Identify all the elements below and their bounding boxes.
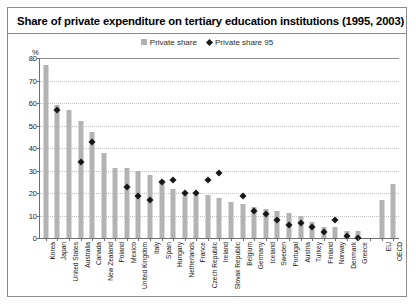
x-axis-tick-label: Czech Republic <box>211 242 218 288</box>
x-axis-tick <box>57 238 58 241</box>
x-axis-tick <box>370 238 371 241</box>
bar-group[interactable]: Poland <box>109 58 121 238</box>
x-axis-tick <box>277 238 278 241</box>
bar-group[interactable]: Turkey <box>306 58 318 238</box>
x-axis-tick <box>254 238 255 241</box>
bar[interactable] <box>124 168 129 238</box>
bar[interactable] <box>113 168 118 238</box>
bar-group[interactable]: Italy <box>144 58 156 238</box>
y-axis-tick <box>37 238 40 239</box>
bar[interactable] <box>171 189 176 239</box>
x-axis-tick <box>46 238 47 241</box>
x-axis-tick-label: Austria <box>304 242 311 263</box>
x-axis-tick-label: Australia <box>84 242 91 268</box>
x-axis-tick <box>358 238 359 241</box>
bar-group[interactable]: Ireland <box>214 58 226 238</box>
bar-group[interactable]: New Zealand <box>98 58 110 238</box>
x-axis-tick <box>150 238 151 241</box>
bar-group[interactable]: Norway <box>330 58 342 238</box>
x-axis-tick-label: Greece <box>361 242 368 264</box>
y-axis-tick-label: 10 <box>29 211 37 220</box>
x-axis-tick-label: Italy <box>153 242 160 254</box>
x-axis-tick-label: Netherlands <box>188 242 195 278</box>
bar-group[interactable]: Greece <box>353 58 365 238</box>
y-axis-tick-label: 80 <box>29 54 37 63</box>
y-axis-tick-label: 70 <box>29 76 37 85</box>
x-axis-tick <box>335 238 336 241</box>
x-axis-tick <box>219 238 220 241</box>
y-axis-tick-label: 20 <box>29 189 37 198</box>
bar-group[interactable]: Japan <box>52 58 64 238</box>
bar-group[interactable]: Iceland <box>260 58 272 238</box>
y-axis-tick-label: 50 <box>29 121 37 130</box>
x-axis-tick-label: New Zealand <box>107 242 114 281</box>
bar[interactable] <box>159 180 164 239</box>
bar[interactable] <box>66 110 71 238</box>
x-axis-tick-label: OECD <box>396 242 403 261</box>
bar[interactable] <box>240 204 245 238</box>
bar-group[interactable]: Austria <box>295 58 307 238</box>
bar-group[interactable]: Sweden <box>272 58 284 238</box>
x-axis-tick-label: Turkey <box>315 242 322 262</box>
diamond-marker[interactable] <box>216 169 223 176</box>
bar-group[interactable]: Hungary <box>167 58 179 238</box>
x-axis-tick-label: France <box>199 242 206 263</box>
x-axis-tick <box>243 238 244 241</box>
bar[interactable] <box>43 65 48 238</box>
x-axis-tick <box>382 238 383 241</box>
bar[interactable] <box>217 198 222 239</box>
x-axis-tick <box>289 238 290 241</box>
x-axis-tick <box>81 238 82 241</box>
bar-group[interactable]: Mexico <box>121 58 133 238</box>
diamond-marker[interactable] <box>239 192 246 199</box>
x-axis-tick <box>393 238 394 241</box>
diamond-marker[interactable] <box>204 176 211 183</box>
bar[interactable] <box>148 175 153 238</box>
bar-group[interactable]: Portugal <box>283 58 295 238</box>
bar-group[interactable]: Slovak Republic <box>225 58 237 238</box>
bar-group[interactable]: United States <box>63 58 75 238</box>
bar[interactable] <box>333 227 338 238</box>
bar[interactable] <box>78 121 83 238</box>
bar[interactable] <box>391 184 396 238</box>
x-axis-tick-label: Norway <box>338 242 345 264</box>
x-axis-tick-label: Iceland <box>269 242 276 263</box>
x-axis-tick <box>231 238 232 241</box>
diamond-marker[interactable] <box>332 217 339 224</box>
bar[interactable] <box>55 105 60 238</box>
bar[interactable] <box>101 153 106 239</box>
x-axis-tick <box>347 238 348 241</box>
bar-group[interactable]: Canada <box>86 58 98 238</box>
bar-group[interactable]: OECD <box>387 58 399 238</box>
bar-group[interactable]: Germany <box>248 58 260 238</box>
bar-group[interactable]: Belgium <box>237 58 249 238</box>
bar-group[interactable]: Denmark <box>341 58 353 238</box>
x-axis-tick-label: Spain <box>165 242 172 259</box>
bar-group[interactable]: Netherlands <box>179 58 191 238</box>
bar[interactable] <box>136 171 141 239</box>
bar[interactable] <box>379 200 384 238</box>
bar-group[interactable] <box>364 58 376 238</box>
bar[interactable] <box>205 195 210 238</box>
x-axis-tick-label: Poland <box>118 242 125 263</box>
bar[interactable] <box>194 193 199 238</box>
bar-group[interactable]: Spain <box>156 58 168 238</box>
bar-group[interactable]: EU <box>376 58 388 238</box>
bar-group[interactable]: Finland <box>318 58 330 238</box>
bar-group[interactable]: France <box>191 58 203 238</box>
bar-group[interactable]: Korea <box>40 58 52 238</box>
x-axis-tick-label: Denmark <box>350 242 357 269</box>
bar-group[interactable]: United Kingdom <box>133 58 145 238</box>
bar[interactable] <box>275 211 280 238</box>
x-axis-tick <box>324 238 325 241</box>
bar[interactable] <box>229 202 234 238</box>
x-axis-tick-label: Ireland <box>222 242 229 262</box>
y-axis-tick-label: 30 <box>29 166 37 175</box>
bar-group[interactable]: Czech Republic <box>202 58 214 238</box>
diamond-marker[interactable] <box>170 176 177 183</box>
bar[interactable] <box>182 193 187 238</box>
bar[interactable] <box>90 132 95 238</box>
bar-group[interactable]: Australia <box>75 58 87 238</box>
x-axis-tick-label: EU <box>385 242 392 251</box>
x-axis-tick <box>173 238 174 241</box>
